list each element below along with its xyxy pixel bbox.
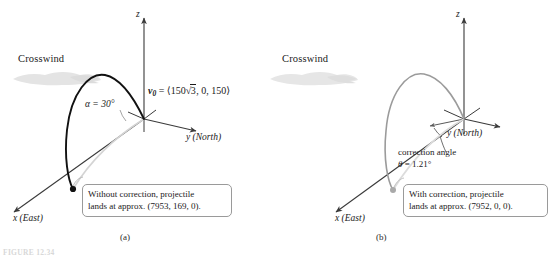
crosswind-cloud-icon	[270, 72, 358, 85]
landing-point-marker	[390, 187, 396, 193]
correction-angle-line1: correction angle	[398, 146, 456, 158]
axis-label-z-b: z	[456, 9, 460, 20]
panel-a: Crosswind z y (North) x (East) α = 30° v…	[0, 0, 252, 260]
axis-label-x-b-text: x (East)	[335, 213, 365, 223]
landing-point-marker	[70, 186, 76, 192]
initial-velocity-label: v0 = ⟨150√3, 0, 150⟩	[148, 85, 230, 99]
crosswind-cloud-icon	[13, 72, 101, 85]
callout-a-line2: lands at approx. (7953, 169, 0).	[88, 200, 226, 212]
axis-y	[144, 119, 196, 131]
axis-label-y-a-text: y (North)	[186, 132, 221, 142]
angle-alpha-arc	[120, 110, 126, 121]
callout-without-correction: Without correction, projectile lands at …	[82, 184, 232, 217]
velocity-x-radicand: 3	[190, 84, 196, 96]
axis-label-x-a-text: x (East)	[13, 213, 43, 223]
callout-b-line2: lands at approx. (7952, 0, 0).	[409, 200, 542, 212]
crosswind-label-a: Crosswind	[18, 53, 64, 65]
axis-label-y-b-text: y (North)	[447, 128, 482, 138]
theta-symbol: θ	[398, 159, 402, 169]
axis-label-x-b: x (East)	[335, 213, 365, 224]
velocity-z-component: 150	[211, 85, 226, 96]
theta-equals: =	[405, 159, 410, 169]
axis-x-negative-stub	[464, 108, 480, 119]
crosswind-label-b: Crosswind	[282, 53, 328, 65]
figure-number-caption: FIGURE 12.34	[3, 248, 55, 257]
velocity-x-coeff: 150	[171, 85, 186, 96]
axis-x-negative-stub	[144, 110, 156, 119]
callout-a-line1: Without correction, projectile	[88, 188, 226, 200]
trajectory-without-correction	[66, 75, 144, 189]
correction-angle-label: correction angle θ = 1.21°	[398, 146, 456, 170]
velocity-equals: =	[159, 85, 165, 96]
ground-projection-path	[73, 119, 144, 189]
axis-label-z-a: z	[136, 9, 140, 20]
axis-y	[464, 119, 500, 127]
axis-label-x-a: x (East)	[13, 213, 43, 224]
callout-b-line1: With correction, projectile	[409, 188, 542, 200]
launch-angle-label: α = 30°	[85, 99, 114, 110]
callout-with-correction: With correction, projectile lands at app…	[403, 184, 548, 217]
theta-value: 1.21°	[412, 159, 431, 169]
subcaption-b: (b)	[376, 232, 387, 242]
axis-label-y-a: y (North)	[186, 132, 221, 143]
velocity-subscript: 0	[152, 89, 156, 98]
velocity-y-component: 0	[201, 85, 206, 96]
panel-b: Crosswind z y (North) x (East) correctio…	[252, 0, 504, 260]
velocity-close-bracket: ⟩	[226, 85, 230, 96]
correction-angle-line2: θ = 1.21°	[398, 158, 456, 170]
subcaption-a: (a)	[120, 232, 130, 242]
axis-label-y-b: y (North)	[447, 128, 482, 139]
